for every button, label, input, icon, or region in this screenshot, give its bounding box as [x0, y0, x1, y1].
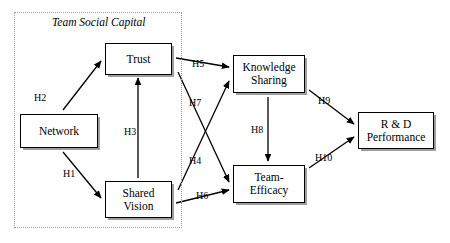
- node-team-efficacy-label: Team- Efficacy: [248, 171, 291, 197]
- node-network[interactable]: Network: [20, 114, 98, 148]
- team-social-capital-group-title: Team Social Capital: [52, 16, 146, 28]
- edge-label-h5: H5: [192, 58, 204, 69]
- edge-label-h2: H2: [34, 92, 46, 103]
- node-rd-performance-label: R & D Performance: [365, 118, 428, 144]
- edge-label-h1: H1: [63, 168, 75, 179]
- edge-label-h6: H6: [196, 190, 208, 201]
- edge-label-h4: H4: [189, 155, 201, 166]
- edge-label-h8: H8: [251, 124, 263, 135]
- edge-h9-line: [309, 90, 354, 124]
- edge-h4-line: [178, 81, 229, 190]
- node-knowledge-sharing[interactable]: Knowledge Sharing: [233, 55, 305, 93]
- research-model-diagram: Team Social Capital: [0, 0, 450, 243]
- edge-label-h9: H9: [318, 95, 330, 106]
- node-rd-performance[interactable]: R & D Performance: [358, 112, 434, 149]
- node-knowledge-sharing-label: Knowledge Sharing: [240, 61, 297, 87]
- node-network-label: Network: [37, 125, 81, 138]
- node-trust[interactable]: Trust: [105, 43, 172, 75]
- edge-label-h10: H10: [315, 152, 332, 163]
- edge-h7-line: [178, 72, 229, 182]
- node-team-efficacy[interactable]: Team- Efficacy: [233, 165, 305, 203]
- node-trust-label: Trust: [125, 53, 153, 66]
- node-shared-vision-label: Shared Vision: [121, 187, 157, 213]
- edge-label-h3: H3: [124, 126, 136, 137]
- node-shared-vision[interactable]: Shared Vision: [105, 181, 172, 218]
- edge-label-h7: H7: [189, 97, 201, 108]
